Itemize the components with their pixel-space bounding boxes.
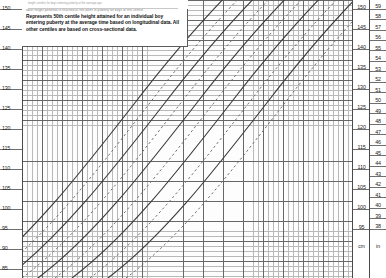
- annotation-text: Represents 50th centile height attained …: [26, 14, 183, 33]
- axis-tick-right-in: 45: [370, 150, 386, 156]
- axis-tick-left: 125: [0, 105, 24, 111]
- axis-tick-right-cm: 140: [353, 44, 370, 50]
- axis-tick-right-in: 50: [370, 97, 386, 103]
- axis-tick-right-in: 44: [370, 160, 386, 166]
- axis-tick-right-in: 41: [370, 192, 386, 198]
- axis-tick-left: 135: [0, 65, 24, 71]
- axis-tick-right-in: 46: [370, 139, 386, 145]
- axis-tick-right-in: 56: [370, 34, 386, 40]
- axis-tick-right-cm: 120: [353, 124, 370, 130]
- axis-tick-right-cm: 100: [353, 204, 370, 210]
- axis-tick-right-in: 39: [370, 213, 386, 219]
- axis-tick-left: 145: [0, 25, 24, 31]
- axis-tick-right-cm: 115: [353, 144, 370, 150]
- axis-tick-left: 90: [0, 245, 24, 251]
- axis-tick-right-in: 49: [370, 108, 386, 114]
- axis-tick-left: 85: [0, 265, 24, 271]
- right-axis-cm: 150 145 140 135 130 125 120 115 110 105 …: [352, 0, 370, 278]
- annotation-divider: [28, 8, 178, 9]
- axis-tick-left: 150: [0, 5, 24, 11]
- right-axis-inches: 59 58 57 56 55 54 53 52 51 50 49 48 47 4…: [369, 0, 386, 278]
- axis-tick-right-cm: 105: [353, 184, 370, 190]
- axis-tick-left: 105: [0, 185, 24, 191]
- axis-tick-left: 115: [0, 145, 24, 151]
- axis-tick-left: 100: [0, 205, 24, 211]
- axis-tick-right-cm: 135: [353, 64, 370, 70]
- axis-tick-right-in: 43: [370, 171, 386, 177]
- axis-unit-cm: cm: [353, 243, 370, 249]
- axis-unit-inches: in: [370, 243, 386, 249]
- axis-tick-right-cm: 150: [353, 4, 370, 10]
- axis-tick-right-in: 58: [370, 13, 386, 19]
- axis-tick-right-in: 54: [370, 55, 386, 61]
- left-axis-cm: 150 145 140 135 130 125 120 115 110 105 …: [0, 0, 23, 278]
- axis-tick-right-cm: 145: [353, 24, 370, 30]
- axis-tick-left: 110: [0, 165, 24, 171]
- axis-tick-right-in: 48: [370, 118, 386, 124]
- axis-tick-left: 120: [0, 125, 24, 131]
- axis-tick-right-cm: 110: [353, 164, 370, 170]
- axis-tick-right-cm: 125: [353, 104, 370, 110]
- axis-tick-left: 130: [0, 85, 24, 91]
- axis-tick-right-in: 40: [370, 202, 386, 208]
- axis-tick-right-cm: 130: [353, 84, 370, 90]
- axis-tick-right-in: 55: [370, 45, 386, 51]
- axis-tick-right-in: 52: [370, 76, 386, 82]
- axis-tick-right-in: 38: [370, 223, 386, 229]
- axis-tick-right-cm: 95: [353, 224, 370, 230]
- axis-tick-right-in: 53: [370, 66, 386, 72]
- axis-tick-left: 95: [0, 225, 24, 231]
- axis-tick-right-in: 57: [370, 24, 386, 30]
- axis-tick-left: 140: [0, 45, 24, 51]
- top-caption-text: height centiles for boys entering pubert…: [22, 0, 188, 5]
- axis-tick-right-in: 51: [370, 87, 386, 93]
- axis-tick-right-in: 47: [370, 129, 386, 135]
- axis-tick-right-in: 59: [370, 3, 386, 9]
- axis-tick-right-in: 42: [370, 181, 386, 187]
